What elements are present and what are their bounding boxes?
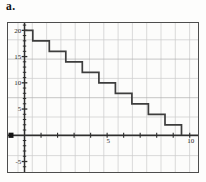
tick-labels: 2015105-5510 [14, 27, 194, 166]
x-tick-label: 10 [187, 137, 195, 145]
grid-lines [8, 23, 198, 172]
y-tick-label: 10 [14, 79, 22, 87]
x-tick-label: 5 [106, 137, 110, 145]
y-tick-label: 5 [18, 105, 22, 113]
plot-svg: 2015105-5510 [8, 23, 198, 172]
axis-left-marker [9, 133, 14, 138]
y-tick-label: -5 [15, 158, 21, 166]
plot-frame: 2015105-5510 [7, 22, 199, 173]
part-label: a. [6, 0, 16, 12]
y-tick-label: 20 [14, 27, 22, 35]
y-tick-label: 15 [14, 53, 22, 61]
staircase-line [25, 30, 182, 135]
